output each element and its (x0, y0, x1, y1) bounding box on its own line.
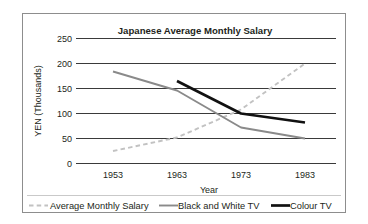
x-tick-label-1953: 1953 (103, 170, 123, 180)
x-tick-label-1973: 1973 (231, 170, 251, 180)
y-tick-labels: 250 200 150 100 50 0 (57, 34, 72, 169)
y-tick-label-50: 50 (62, 134, 72, 144)
chart-container: Japanese Average Monthly Salary 250 200 … (22, 13, 346, 213)
legend-label-average-monthly-salary: Average Monthly Salary (50, 201, 149, 211)
chart-title: Japanese Average Monthly Salary (118, 25, 273, 36)
x-tick-label-1963: 1963 (167, 170, 187, 180)
y-tick-label-0: 0 (67, 159, 72, 169)
gridlines (81, 39, 336, 164)
y-tickmarks (76, 39, 81, 164)
line-chart: Japanese Average Monthly Salary 250 200 … (23, 14, 345, 212)
y-tick-label-150: 150 (57, 84, 72, 94)
y-tick-label-250: 250 (57, 34, 72, 44)
x-axis-title: Year (200, 185, 218, 195)
chart-legend: Average Monthly Salary Black and White T… (29, 201, 332, 211)
series-line-black-and-white-tv (113, 72, 305, 139)
y-tick-label-200: 200 (57, 59, 72, 69)
x-tick-labels: 1953 1963 1973 1983 (103, 170, 315, 180)
legend-label-colour-tv: Colour TV (290, 201, 332, 211)
x-tick-label-1983: 1983 (295, 170, 315, 180)
legend-label-black-and-white-tv: Black and White TV (178, 201, 260, 211)
series-line-average-monthly-salary (113, 64, 305, 152)
y-axis-title: YEN (Thousands) (33, 65, 43, 137)
y-tick-label-100: 100 (57, 109, 72, 119)
